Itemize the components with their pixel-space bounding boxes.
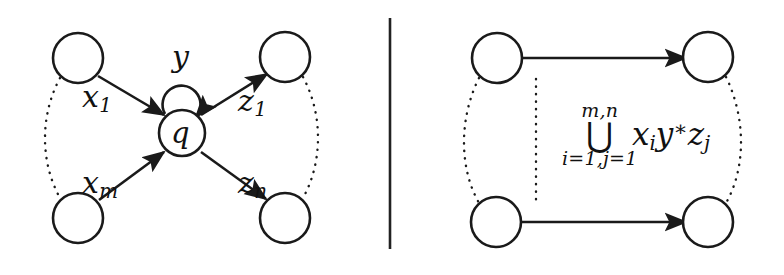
edge-label-z1-sub: 1: [254, 98, 267, 121]
node-in-bottom: [53, 193, 103, 243]
edge-label-x1: x1: [82, 82, 112, 112]
expr-z: z: [688, 116, 704, 152]
edge-label-z1-base: z: [238, 83, 254, 118]
node-label-q: q: [171, 119, 190, 148]
union-lower-limit: i=1,j=1: [562, 149, 637, 168]
node-out-bottom: [260, 193, 310, 243]
edge-label-xm: xm: [82, 168, 118, 198]
self-loop-label-y: y: [172, 42, 189, 72]
edge-label-x1-sub: 1: [99, 94, 112, 117]
union-operator-block: m,n ⋃ i=1,j=1: [562, 101, 637, 168]
union-expression: xiy∗zj: [632, 119, 710, 150]
expr-y: y: [656, 116, 674, 152]
r-node-out-top: [683, 32, 733, 82]
edge-label-zn-sub: n: [254, 180, 267, 203]
node-in-top: [53, 33, 103, 83]
r-node-in-top: [472, 33, 522, 83]
expr-star: ∗: [673, 116, 687, 141]
edge-label-xm-base: x: [82, 165, 99, 200]
edge-label-xm-sub: m: [99, 180, 118, 203]
expr-x: x: [632, 116, 649, 152]
edge-label-zn-base: z: [238, 165, 254, 200]
dots-left-inputs: [45, 78, 60, 198]
edge-label-zn: zn: [238, 168, 267, 198]
r-node-out-bottom: [683, 197, 733, 247]
expr-x-sub: i: [649, 132, 655, 155]
r-node-in-bottom: [471, 197, 521, 247]
edge-label-z1: z1: [238, 86, 266, 116]
dots-right-outputs: [303, 77, 318, 198]
r-dots-left: [464, 78, 479, 203]
figure-canvas: x1 xm z1 zn y q m,n ⋃ i=1,j=1 xiy∗zj: [0, 0, 784, 275]
r-dots-right: [726, 77, 741, 203]
union-symbol-icon: ⋃: [586, 121, 613, 148]
node-out-top: [260, 32, 310, 82]
edge-label-x1-base: x: [82, 79, 99, 114]
expr-z-sub: j: [704, 132, 710, 155]
